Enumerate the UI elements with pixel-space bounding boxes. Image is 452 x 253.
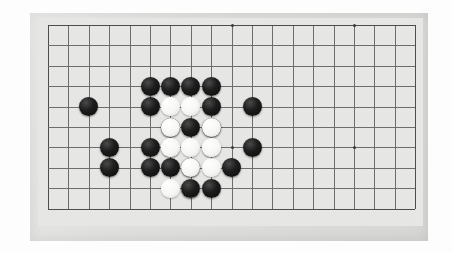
- board-playing-surface: [38, 18, 423, 226]
- go-board-scene: [0, 0, 452, 253]
